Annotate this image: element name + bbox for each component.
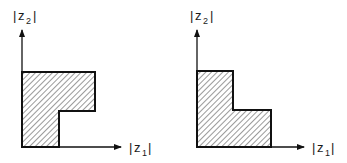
right-panel: | z 2 | | z 1 | xyxy=(190,8,334,158)
svg-text:z: z xyxy=(317,140,324,155)
svg-text:z: z xyxy=(134,140,141,155)
left-panel: | z 2 | | z 1 | xyxy=(13,8,151,158)
svg-text:|: | xyxy=(312,140,315,155)
svg-text:1: 1 xyxy=(142,148,147,158)
svg-text:2: 2 xyxy=(26,16,31,26)
left-x-axis-label: | z 1 | xyxy=(129,140,151,158)
svg-text:1: 1 xyxy=(325,148,330,158)
svg-text:|: | xyxy=(33,8,36,23)
right-x-axis-label: | z 1 | xyxy=(312,140,334,158)
svg-text:|: | xyxy=(331,140,334,155)
svg-text:|: | xyxy=(190,8,193,23)
svg-text:z: z xyxy=(18,8,25,23)
svg-text:|: | xyxy=(129,140,132,155)
left-region xyxy=(22,72,95,147)
svg-text:z: z xyxy=(195,8,202,23)
right-y-axis-label: | z 2 | xyxy=(190,8,213,26)
svg-text:|: | xyxy=(13,8,16,23)
right-region xyxy=(197,71,271,147)
diagram-canvas: | z 2 | | z 1 | | z 2 | | z 1 | xyxy=(0,0,347,163)
svg-text:|: | xyxy=(210,8,213,23)
svg-text:|: | xyxy=(148,140,151,155)
svg-text:2: 2 xyxy=(203,16,208,26)
left-y-axis-label: | z 2 | xyxy=(13,8,36,26)
